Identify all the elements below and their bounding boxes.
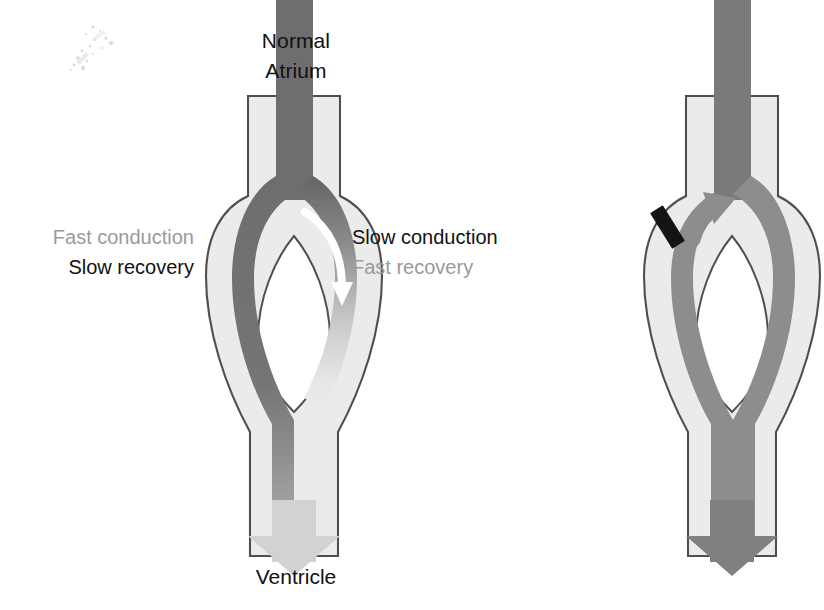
label-left-line-1: Fast conduction	[14, 222, 194, 252]
label-left-pathway: Fast conduction Slow recovery	[14, 222, 194, 282]
label-right-pathway: Slow conduction Fast recovery	[352, 222, 552, 282]
label-right-line-1: Slow conduction	[352, 222, 552, 252]
title-line-1: Normal	[186, 26, 406, 56]
label-right-line-2: Fast recovery	[352, 252, 552, 282]
panel-normal: Normal Atrium Fast conduction Slow recov…	[0, 0, 540, 610]
normal-conduction-diagram	[0, 0, 540, 610]
diagram-canvas: Normal Atrium Fast conduction Slow recov…	[0, 0, 824, 610]
ventricle-label-normal: Ventricle	[196, 565, 396, 589]
title-line-2: Atrium	[186, 56, 406, 86]
label-left-line-2: Slow recovery	[14, 252, 194, 282]
atrial-conduction-band-reentry	[714, 0, 751, 200]
panel-reentry: Reentry Atrium Ventricle	[540, 0, 824, 610]
page-title-normal: Normal Atrium	[186, 26, 406, 87]
reentry-conduction-diagram	[540, 0, 824, 610]
